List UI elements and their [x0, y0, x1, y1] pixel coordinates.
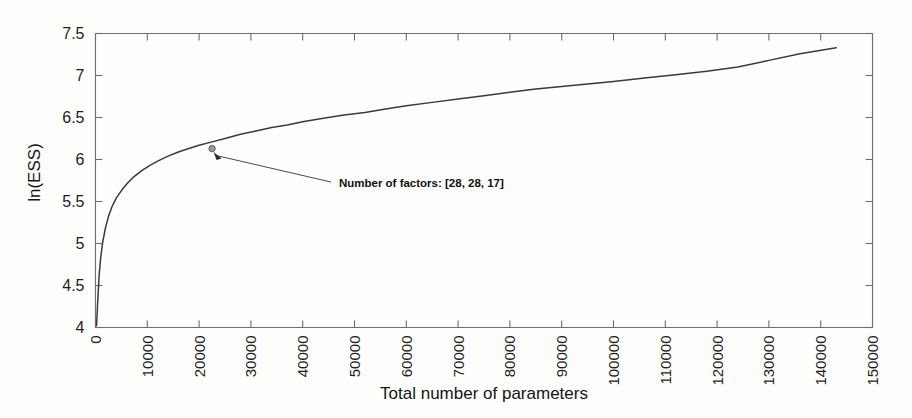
y-tick-label: 5.5	[62, 193, 84, 210]
y-tick-label: 6	[76, 151, 85, 168]
x-tick-label: 30000	[242, 336, 259, 378]
annotation-label: Number of factors: [28, 28, 17]	[339, 177, 504, 189]
annotation-marker-point	[209, 145, 215, 151]
x-tick-label: 60000	[398, 336, 415, 378]
figure-container: 44.555.566.577.5010000200003000040000500…	[0, 0, 912, 418]
x-tick-label: 40000	[294, 336, 311, 378]
x-tick-label: 100000	[605, 336, 622, 386]
chart-figure: 44.555.566.577.5010000200003000040000500…	[0, 0, 912, 418]
x-axis-title: Total number of parameters	[380, 384, 588, 403]
x-tick-label: 20000	[191, 336, 208, 378]
x-tick-label: 150000	[864, 336, 881, 386]
x-tick-label: 70000	[450, 336, 467, 378]
x-tick-label: 10000	[139, 336, 156, 378]
y-tick-label: 6.5	[62, 109, 84, 126]
y-tick-label: 4	[76, 319, 85, 336]
x-tick-label: 120000	[709, 336, 726, 386]
x-tick-label: 130000	[760, 336, 777, 386]
x-tick-label: 0	[87, 336, 104, 344]
y-axis-title: ln(ESS)	[25, 143, 44, 202]
x-tick-label: 50000	[346, 336, 363, 378]
x-tick-label: 110000	[657, 336, 674, 385]
y-tick-label: 7	[76, 67, 85, 84]
y-tick-label: 7.5	[62, 25, 84, 42]
y-tick-label: 4.5	[62, 277, 84, 294]
x-tick-label: 90000	[553, 336, 570, 378]
x-tick-label: 140000	[812, 336, 829, 386]
y-tick-label: 5	[76, 235, 85, 252]
x-tick-label: 80000	[501, 336, 518, 378]
annotation-leader-line	[217, 156, 331, 182]
